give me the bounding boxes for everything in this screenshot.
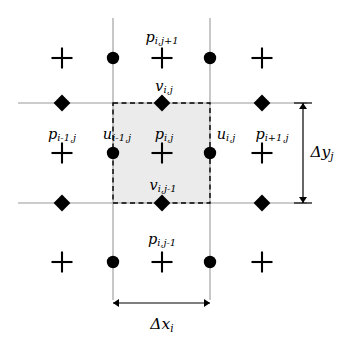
label-p-i-jplus1: pi,j+1 [145,30,178,47]
staggered-grid-figure: pi,j+1 vi,j pi-1,j ui-1,j pi,j ui,j pi+1… [0,0,343,341]
delta-x-dimension-arrow [113,299,210,307]
label-delta-y-j: Δyj [310,145,333,161]
label-p-i-jminus1: pi,j-1 [148,232,176,249]
label-v-i-jminus1: vi,j-1 [149,178,176,195]
label-p-iminus1-j: pi-1,j [48,127,76,144]
grid-canvas [0,0,343,341]
label-u-i-j: ui,j [217,127,236,144]
label-p-iplus1-j: pi+1,j [255,127,288,144]
delta-y-dimension-arrow [294,103,312,203]
label-u-iminus1-j: ui-1,j [103,127,131,144]
label-delta-x-i: Δxi [150,317,173,333]
label-v-i-j: vi,j [155,79,173,96]
label-p-i-j: pi,j [155,127,174,144]
